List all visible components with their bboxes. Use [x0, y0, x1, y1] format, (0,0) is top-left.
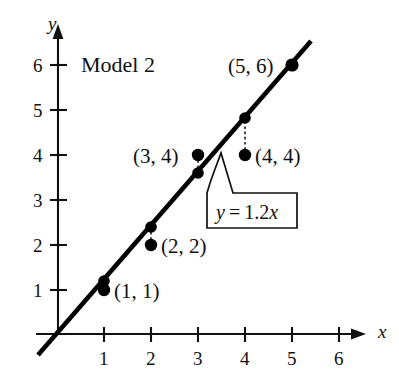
fitted-point-4: [239, 112, 251, 124]
x-tick-label-3: 3: [193, 349, 203, 368]
point-label-2-2: (2, 2): [161, 236, 207, 257]
x-tick-label-2: 2: [146, 349, 156, 368]
data-point-3-4: [192, 149, 204, 161]
y-tick-label-6: 6: [33, 56, 43, 75]
point-label-3-4: (3, 4): [133, 146, 179, 167]
plot-canvas: [0, 0, 399, 381]
x-axis-arrow-icon: [351, 329, 366, 340]
page-title: Model 2: [81, 54, 155, 76]
chart-figure: Model 2 y x 1 2 3 4 5 6 1 2 3 4 5 6 (1, …: [0, 0, 399, 381]
data-point-1-1: [98, 284, 110, 296]
x-tick-label-6: 6: [334, 349, 344, 368]
fitted-point-5: [285, 58, 298, 71]
y-tick-label-1: 1: [33, 281, 43, 300]
point-label-1-1: (1, 1): [114, 281, 160, 302]
x-tick-label-4: 4: [240, 349, 250, 368]
data-point-4-4: [239, 149, 251, 161]
x-tick-label-1: 1: [99, 349, 109, 368]
fitted-point-2: [145, 221, 157, 233]
data-point-2-2: [145, 239, 157, 251]
equation-lhs: y: [216, 201, 225, 223]
x-tick-label-5: 5: [287, 349, 297, 368]
y-tick-label-2: 2: [33, 236, 43, 255]
fitted-point-3: [192, 167, 204, 179]
x-axis-label: x: [378, 322, 386, 341]
y-tick-label-4: 4: [33, 146, 43, 165]
equation-variable: x: [269, 201, 278, 223]
equation-annotation: y=1.2x: [216, 202, 278, 222]
y-axis-label: y: [48, 14, 56, 33]
equation-operator: =: [229, 201, 240, 223]
point-label-4-4: (4, 4): [255, 146, 301, 167]
y-tick-label-3: 3: [33, 191, 43, 210]
y-tick-label-5: 5: [33, 101, 43, 120]
point-label-5-6: (5, 6): [228, 56, 274, 77]
equation-coefficient: 1.2: [244, 201, 269, 223]
